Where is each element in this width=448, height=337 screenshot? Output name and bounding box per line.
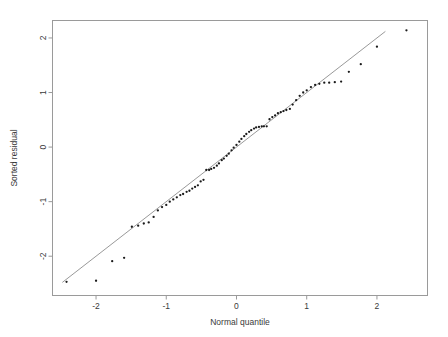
data-point: [188, 190, 190, 192]
data-point: [230, 149, 232, 151]
data-point: [137, 225, 139, 227]
data-point: [240, 138, 242, 140]
data-point: [271, 116, 273, 118]
data-point: [235, 144, 237, 146]
data-point: [340, 80, 342, 82]
data-point: [263, 125, 265, 127]
data-point: [243, 135, 245, 137]
qq-reference-line: [62, 31, 385, 282]
y-axis-title: Sorted residual: [9, 129, 19, 186]
x-axis-title: Normal quantile: [210, 317, 270, 327]
data-point: [302, 91, 304, 93]
data-point: [258, 126, 260, 128]
data-point: [285, 109, 287, 111]
reference-line-group: [62, 31, 385, 282]
data-point: [221, 159, 223, 161]
data-point: [200, 180, 202, 182]
y-tick-label: 2: [39, 35, 49, 40]
data-point: [266, 125, 268, 127]
data-point: [65, 281, 67, 283]
data-point: [376, 46, 378, 48]
x-tick-label: -2: [92, 301, 100, 311]
x-tick-label: 1: [304, 301, 309, 311]
x-axis-tick-labels: -2-1012: [92, 301, 379, 311]
data-point: [245, 133, 247, 135]
data-point: [299, 95, 301, 97]
x-tick-label: 0: [234, 301, 239, 311]
data-point: [223, 157, 225, 159]
data-point: [328, 82, 330, 84]
data-point: [348, 71, 350, 73]
data-point: [318, 83, 320, 85]
data-point: [131, 226, 133, 228]
y-tick-label: -1: [39, 198, 49, 206]
data-point: [202, 179, 204, 181]
qq-plot-figure: -2-1012 -2-1012 Normal quantile Sorted r…: [0, 0, 448, 337]
y-axis-ticks: [49, 38, 53, 256]
x-tick-label: -1: [162, 301, 170, 311]
data-point: [165, 204, 167, 206]
data-point: [161, 206, 163, 208]
data-point: [306, 89, 308, 91]
data-point: [250, 129, 252, 131]
data-point: [191, 187, 193, 189]
x-axis-ticks: [96, 296, 377, 300]
data-point: [334, 81, 336, 83]
data-point: [228, 152, 230, 154]
data-point: [280, 111, 282, 113]
data-point: [182, 193, 184, 195]
data-point: [169, 201, 171, 203]
data-point: [261, 125, 263, 127]
data-point: [152, 216, 154, 218]
data-point: [289, 108, 291, 110]
data-point: [176, 196, 178, 198]
data-point: [210, 168, 212, 170]
data-point: [226, 155, 228, 157]
y-tick-label: 0: [39, 144, 49, 149]
data-point: [172, 198, 174, 200]
data-point: [405, 29, 407, 31]
data-point: [360, 63, 362, 65]
data-point: [185, 191, 187, 193]
y-axis-tick-labels: -2-1012: [39, 35, 49, 260]
data-points-group: [65, 29, 407, 283]
data-point: [143, 222, 145, 224]
y-tick-label: -2: [39, 252, 49, 260]
data-point: [274, 114, 276, 116]
data-point: [95, 280, 97, 282]
data-point: [282, 110, 284, 112]
data-point: [295, 99, 297, 101]
data-point: [194, 186, 196, 188]
data-point: [314, 84, 316, 86]
data-point: [218, 162, 220, 164]
data-point: [323, 82, 325, 84]
data-point: [253, 127, 255, 129]
y-tick-label: 1: [39, 90, 49, 95]
plot-border: [53, 21, 428, 296]
data-point: [277, 112, 279, 114]
data-point: [310, 86, 312, 88]
plot-canvas: -2-1012 -2-1012 Normal quantile Sorted r…: [0, 0, 448, 337]
data-point: [157, 209, 159, 211]
data-point: [292, 103, 294, 105]
data-point: [123, 257, 125, 259]
data-point: [248, 131, 250, 133]
x-tick-label: 2: [375, 301, 380, 311]
data-point: [268, 118, 270, 120]
data-point: [216, 164, 218, 166]
data-point: [208, 169, 210, 171]
data-point: [205, 169, 207, 171]
data-point: [255, 126, 257, 128]
data-point: [233, 146, 235, 148]
data-point: [238, 140, 240, 142]
data-point: [148, 221, 150, 223]
data-point: [197, 184, 199, 186]
data-point: [111, 260, 113, 262]
data-point: [179, 194, 181, 196]
data-point: [213, 167, 215, 169]
plot-frame: [53, 21, 428, 296]
